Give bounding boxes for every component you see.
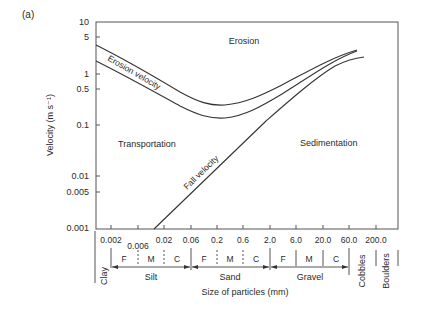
x-axis-ticks: [111, 225, 376, 229]
x-tick-label: 0.02: [156, 235, 173, 245]
sand-coarse: C: [253, 254, 259, 264]
gravel-medium: M: [305, 254, 312, 264]
y-tick-label: 5: [84, 32, 89, 42]
gravel-coarse: C: [333, 254, 339, 264]
x-tick-label: 0.2: [211, 235, 223, 245]
y-tick-label: 0.01: [71, 171, 89, 181]
y-tick-label: 10: [79, 17, 89, 27]
erosion-velocity-label: Erosion velocity: [106, 53, 163, 92]
sand-fine: F: [201, 254, 206, 264]
x-tick-label: 20.0: [315, 235, 332, 245]
x-tick-label: 0.002: [100, 235, 122, 245]
erosion-label: Erosion: [229, 36, 260, 46]
sedimentation-label: Sedimentation: [300, 138, 358, 148]
y-tick-label: 0.001: [66, 223, 89, 233]
cobbles-label: Cobbles: [357, 254, 367, 288]
sand-medium: M: [226, 254, 233, 264]
silt-fine: F: [121, 254, 126, 264]
x-tick-label: 2.0: [264, 235, 276, 245]
erosion-lower-curve: [96, 51, 357, 118]
y-axis-label: Velocity (m s⁻¹): [45, 94, 55, 156]
y-tick-labels: 10 5 1 0.5 0.1 0.01 0.005 0.001: [66, 17, 89, 233]
y-tick-label: 0.005: [66, 187, 89, 197]
x-tick-label: 0.6: [237, 235, 249, 245]
clay-label: Clay: [99, 267, 109, 286]
silt-coarse: C: [174, 254, 180, 264]
x-tick-label: 0.006: [127, 241, 149, 251]
silt-medium: M: [147, 254, 154, 264]
x-tick-label: 0.06: [183, 235, 200, 245]
class-labels: Clay Silt Sand Gravel Cobbles Boulders: [99, 253, 391, 289]
panel-label: (a): [22, 9, 34, 20]
x-tick-label: 6.0: [290, 235, 302, 245]
x-tick-label: 200.0: [365, 235, 387, 245]
y-tick-label: 0.5: [76, 84, 89, 94]
x-axis-label: Size of particles (mm): [201, 287, 288, 297]
y-tick-label: 0.1: [76, 120, 89, 130]
subclass-labels: F M C F M C F M C: [121, 254, 339, 264]
x-tick-label: 60.0: [341, 235, 358, 245]
boulders-label: Boulders: [381, 253, 391, 289]
gravel-label: Gravel: [297, 272, 324, 282]
silt-label: Silt: [145, 272, 158, 282]
chart: (a) 10 5 1 0.5 0.1 0.01 0.005 0.001 Velo…: [0, 0, 421, 315]
y-tick-label: 1: [84, 69, 89, 79]
x-tick-labels: 0.002 0.006 0.02 0.06 0.2 0.6 2.0 6.0 20…: [100, 235, 387, 251]
transportation-label: Transportation: [118, 139, 176, 149]
y-axis: [96, 37, 100, 192]
sand-label: Sand: [219, 272, 240, 282]
fall-velocity-label: Fall velocity: [181, 153, 220, 192]
gravel-fine: F: [280, 254, 285, 264]
